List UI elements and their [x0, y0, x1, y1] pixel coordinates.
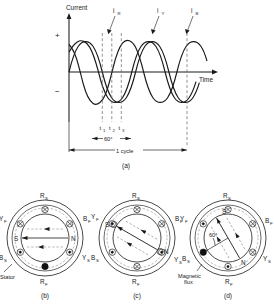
pole-label-s-d: S — [222, 208, 226, 215]
marker-label-t3: t 3 — [119, 125, 126, 133]
angle-dimension-60: 60° — [92, 134, 131, 144]
winding-rf-sub-b: F — [45, 282, 48, 287]
waveform-chart: Current Time + − i R i Y i B — [55, 4, 218, 170]
winding-label-rf-c: R F — [132, 278, 140, 287]
slot-conductor-cross-upper-right-d — [250, 221, 256, 227]
marker-t1-main: t — [100, 125, 102, 131]
winding-yf-sub-d: F — [185, 219, 188, 224]
caption-c: (c) — [133, 292, 141, 300]
slot-conductor-cross-lower-right-d — [250, 249, 256, 255]
series-label-ir-main: i — [113, 7, 114, 14]
marker-t2-sub: 2 — [113, 128, 116, 133]
slot-conductor-dot-bottom-d — [225, 263, 231, 269]
marker-label-t1: t 1 — [100, 125, 107, 133]
marker-t2-main: t — [109, 125, 111, 131]
pole-label-n-d: N — [241, 259, 246, 266]
slot-conductor-dot-lower-left-b — [17, 249, 23, 255]
axis-plus-sign: + — [55, 31, 60, 40]
y-axis-label: Current — [66, 4, 88, 11]
slot-conductor-cross-top-b — [42, 206, 48, 212]
series-label-ib: i B — [185, 7, 199, 34]
winding-label-bs-d: B S — [182, 255, 190, 264]
angle-label-d: 60° — [209, 232, 217, 238]
axis-minus-sign: − — [55, 87, 60, 96]
winding-bs-main-c: B — [91, 254, 95, 261]
series-label-ib-sub: B — [196, 11, 199, 16]
winding-label-bs-b: B S — [0, 254, 7, 263]
winding-label-ys-d: Y S — [263, 255, 271, 264]
pole-label-n-b: N — [71, 235, 76, 242]
winding-rf-sub-d: F — [230, 282, 233, 287]
flux-axis-c — [112, 217, 163, 259]
winding-label-bf-b: B F — [83, 215, 91, 224]
slot-conductor-cross-top-c — [134, 206, 140, 212]
stator-diagram-d: 60° S N R S B F Y S R F B S Y F Ma — [178, 192, 273, 300]
winding-bs-sub-d: S — [187, 259, 190, 264]
stator-callout-label-b: Stator — [0, 274, 15, 280]
slot-conductor-cross-upper-left-b — [17, 221, 23, 227]
series-label-ir-sub: R — [118, 11, 121, 16]
magnetic-flux-label-line2-d: flux — [184, 279, 193, 285]
slot-conductor-dot-upper-left-d — [200, 221, 206, 227]
winding-rs-sub-b: S — [45, 196, 48, 201]
stator-diagram-c: S N R S B F Y S R F B S Y F (c) — [91, 192, 183, 300]
winding-ys-sub-b: S — [87, 258, 90, 263]
winding-rf-sub-c: F — [137, 282, 140, 287]
winding-label-bs-c: B S — [91, 254, 99, 263]
winding-bf-main-b: B — [83, 215, 87, 222]
winding-bs-main-b: B — [0, 254, 3, 261]
pole-label-n-c: N — [164, 248, 169, 255]
slot-conductor-dot-lower-left-c — [109, 249, 115, 255]
caption-a: (a) — [122, 162, 130, 170]
caption-b: (b) — [41, 292, 49, 300]
slot-conductor-cross-upper-right-c — [159, 221, 165, 227]
stator-diagram-b: S N R S B F Y S R F B S Y F Stator — [0, 192, 91, 300]
winding-bs-main-d: B — [182, 255, 186, 262]
winding-label-rf-d: R F — [225, 278, 233, 287]
winding-label-ys-b: Y S — [82, 254, 90, 263]
series-label-iy-sub: Y — [162, 11, 165, 16]
winding-yf-sub-b: F — [4, 219, 7, 224]
caption-d: (d) — [224, 292, 232, 300]
marker-label-t2: t 2 — [109, 125, 116, 133]
pole-label-s-c: S — [105, 221, 109, 228]
slot-conductor-dot-lower-right-b — [67, 249, 73, 255]
winding-yf-sub-c: F — [96, 217, 99, 222]
winding-bs-sub-b: S — [4, 258, 7, 263]
winding-bf-sub-d: F — [270, 221, 273, 226]
winding-label-ys-c: Y S — [174, 256, 182, 265]
flux-axis-b — [22, 227, 68, 249]
winding-rs-sub-c: S — [137, 196, 140, 201]
winding-bf-main-d: B — [265, 217, 269, 224]
marker-t3-sub: 3 — [122, 128, 125, 133]
series-label-ir: i R — [107, 7, 121, 34]
stator-callout-b: Stator — [0, 264, 15, 280]
winding-label-rf-b: R F — [40, 278, 48, 287]
series-label-iy: i Y — [151, 7, 165, 34]
angle-arc-d: 60° — [205, 232, 228, 252]
marker-t1-sub: 1 — [103, 128, 106, 133]
winding-label-yf-c: Y F — [91, 213, 99, 222]
pole-label-s-b: S — [14, 235, 18, 242]
slot-conductor-filled-lower-left-d — [200, 249, 206, 255]
x-axis-label: Time — [199, 76, 213, 83]
winding-bs-sub-c: S — [96, 258, 99, 263]
slot-conductor-filled-bottom-b — [42, 263, 48, 269]
figure-container: Current Time + − i R i Y i B — [0, 0, 274, 308]
winding-label-bf-d: B F — [265, 217, 273, 226]
winding-rs-sub-d: S — [228, 196, 231, 201]
magnetic-flux-callout-d: Magnetic flux — [178, 264, 202, 285]
slot-conductor-cross-bottom-c — [134, 263, 140, 269]
slot-conductor-cross-upper-right-b — [67, 221, 73, 227]
marker-t3-main: t — [119, 125, 121, 131]
angle-dimension-label: 60° — [104, 136, 112, 142]
winding-ys-sub-d: S — [268, 259, 271, 264]
winding-bf-main-c: B — [175, 215, 179, 222]
winding-label-yf-b: Y F — [0, 215, 7, 224]
series-label-iy-main: i — [157, 7, 158, 14]
series-label-ib-main: i — [191, 7, 192, 14]
cycle-dimension-label: 1 cycle — [116, 148, 133, 154]
